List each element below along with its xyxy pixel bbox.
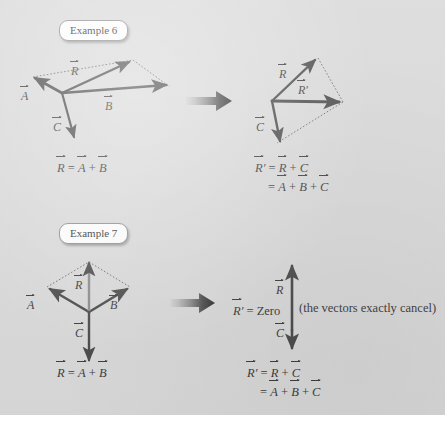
example-7-badge: Example 7 [59, 223, 128, 244]
vector-r-prime [272, 101, 339, 102]
vector-symbol-c: C [53, 119, 61, 135]
vector-symbol-c: C [75, 325, 83, 341]
caption-line: = A + B + C [247, 382, 320, 401]
vector-symbol-b: B [291, 382, 299, 401]
vector-c [62, 93, 74, 137]
equals-sign: = [268, 180, 275, 194]
vector-symbol-c: C [276, 325, 284, 341]
plus-sign: + [289, 161, 296, 175]
vector-symbol-b: B [105, 98, 112, 114]
vector-symbol-r: R [276, 282, 283, 298]
vector-symbol-a: A [27, 297, 34, 313]
equals-sign: = [260, 385, 267, 399]
label-vector-c: C [53, 119, 61, 135]
label-vector-b: B [110, 297, 117, 313]
caption-line: R = A + B [57, 363, 107, 382]
figure-page: Example 6 A B C R R = A + B R R′ C R′ = … [0, 0, 445, 425]
plus-sign: + [281, 385, 288, 399]
example7-left-vector-diagram [47, 262, 130, 360]
caption-line: R = A + B [57, 158, 107, 177]
caption-line: R′ = Zero [233, 301, 280, 320]
vector-symbol-r: R [247, 363, 255, 382]
vector-symbol-a: A [21, 88, 28, 104]
equals-sign: = [68, 366, 75, 380]
prime-mark: ′ [241, 304, 244, 318]
plus-sign: + [310, 180, 317, 194]
label-vector-r-prime: R′ [298, 82, 308, 98]
example-6-badge: Example 6 [59, 20, 128, 41]
construction-line [89, 262, 130, 287]
vector-symbol-r: R [279, 66, 286, 82]
example7-left-caption: R = A + B [57, 363, 107, 382]
construction-line [133, 60, 170, 87]
construction-line [33, 60, 133, 77]
vector-symbol-b: B [99, 363, 107, 382]
vector-symbol-r: R [57, 363, 65, 382]
cancellation-annotation: (the vectors exactly cancel) [299, 301, 436, 316]
label-vector-r: R [276, 282, 283, 298]
caption-line: R′ = R + C [255, 158, 328, 177]
vector-symbol-r: R [75, 277, 82, 293]
vector-b [62, 85, 166, 93]
example6-right-caption: R′ = R + C = A + B + C [255, 158, 328, 196]
vector-symbol-b: B [299, 177, 307, 196]
vector-symbol-a: A [270, 382, 278, 401]
equals-sign: = [269, 161, 276, 175]
vector-symbol-r: R [233, 301, 241, 320]
vector-symbol-r: R [71, 63, 78, 79]
caption-line: = A + B + C [255, 177, 328, 196]
vector-symbol-a: A [78, 363, 86, 382]
construction-line [277, 102, 343, 143]
caption-line: R′ = R + C [247, 363, 320, 382]
example6-left-caption: R = A + B [57, 158, 107, 177]
label-vector-c: C [276, 325, 284, 341]
vector-symbol-a: A [78, 158, 86, 177]
paper-texture-overlay [0, 0, 445, 425]
label-vector-c: C [75, 325, 83, 341]
vector-symbol-r: R [298, 82, 305, 98]
label-vector-r: R [75, 277, 82, 293]
plus-sign: + [289, 180, 296, 194]
gradient-right-arrow [186, 91, 232, 111]
equals-sign: = [247, 304, 254, 318]
label-vector-r: R [279, 66, 286, 82]
vector-symbol-c: C [320, 177, 328, 196]
construction-line [318, 58, 343, 102]
vector-symbol-b: B [99, 158, 107, 177]
vector-a [50, 289, 89, 312]
zero-word: Zero [257, 304, 281, 318]
page-bottom-margin [0, 415, 445, 425]
prime-mark: ′ [263, 161, 266, 175]
example7-zero-statement: R′ = Zero [233, 301, 280, 320]
plus-sign: + [89, 366, 96, 380]
vector-a [35, 78, 62, 93]
example6-transition-arrow [186, 91, 232, 111]
prime-mark: ′ [255, 366, 258, 380]
equals-sign: = [261, 366, 268, 380]
example7-right-caption: R′ = R + C = A + B + C [247, 363, 320, 401]
example7-transition-arrow [170, 293, 215, 313]
vector-symbol-r: R [57, 158, 65, 177]
vector-artwork-layer [0, 0, 445, 425]
plus-sign: + [302, 385, 309, 399]
gradient-right-arrow [170, 293, 215, 313]
vector-b [89, 289, 127, 312]
plus-sign: + [281, 366, 288, 380]
plus-sign: + [89, 161, 96, 175]
vector-symbol-b: B [110, 297, 117, 313]
equals-sign: = [68, 161, 75, 175]
label-vector-c: C [256, 119, 264, 135]
label-vector-a: A [27, 297, 34, 313]
label-vector-r: R [71, 63, 78, 79]
vector-symbol-c: C [256, 119, 264, 135]
vector-symbol-a: A [278, 177, 286, 196]
label-vector-b: B [105, 98, 112, 114]
vector-c [272, 101, 280, 141]
vector-symbol-r: R [255, 158, 263, 177]
label-vector-a: A [21, 88, 28, 104]
vector-symbol-c: C [312, 382, 320, 401]
prime-mark: ′ [305, 83, 308, 97]
